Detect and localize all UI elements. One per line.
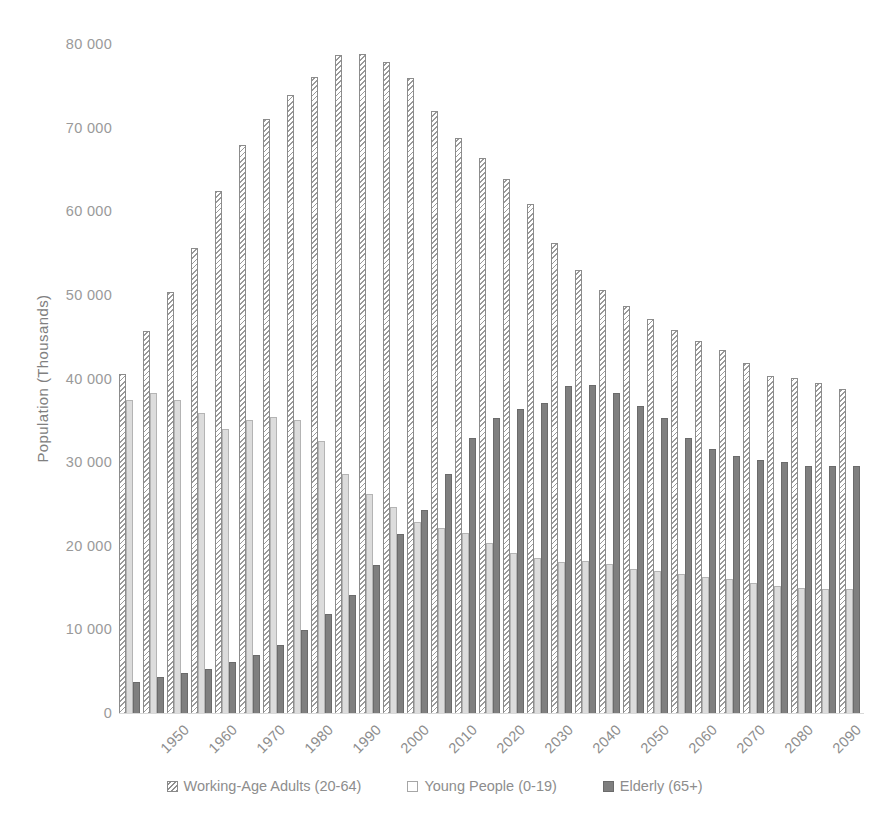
bar-young-2040[interactable] xyxy=(558,562,565,714)
bar-working-1955[interactable] xyxy=(143,331,150,714)
bar-elderly-1980[interactable] xyxy=(277,645,284,714)
bar-working-1985[interactable] xyxy=(287,95,294,714)
bar-working-2035[interactable] xyxy=(527,204,534,714)
bar-young-1955[interactable] xyxy=(150,393,157,714)
bar-elderly-2030[interactable] xyxy=(517,409,524,714)
legend-label: Elderly (65+) xyxy=(620,778,703,794)
bar-elderly-2055[interactable] xyxy=(637,406,644,714)
bar-young-1990[interactable] xyxy=(318,441,325,714)
bar-young-1970[interactable] xyxy=(222,429,229,714)
bar-elderly-1985[interactable] xyxy=(301,630,308,714)
bar-working-1950[interactable] xyxy=(119,374,126,714)
bar-young-1965[interactable] xyxy=(198,413,205,714)
legend-item-elderly[interactable]: Elderly (65+) xyxy=(603,778,703,794)
bar-working-2000[interactable] xyxy=(359,54,366,714)
bar-elderly-2060[interactable] xyxy=(661,418,668,714)
bar-working-2060[interactable] xyxy=(647,319,654,714)
bar-young-1980[interactable] xyxy=(270,417,277,714)
bar-young-1985[interactable] xyxy=(294,420,301,714)
bar-elderly-1950[interactable] xyxy=(133,682,140,714)
bar-young-1995[interactable] xyxy=(342,474,349,714)
bar-working-1980[interactable] xyxy=(263,119,270,714)
bar-elderly-1970[interactable] xyxy=(229,662,236,714)
bar-working-1995[interactable] xyxy=(335,55,342,714)
bar-young-2010[interactable] xyxy=(414,522,421,714)
bar-elderly-2050[interactable] xyxy=(613,393,620,714)
bar-working-1960[interactable] xyxy=(167,292,174,714)
bar-elderly-2025[interactable] xyxy=(493,418,500,714)
bar-young-2025[interactable] xyxy=(486,543,493,714)
bar-elderly-1960[interactable] xyxy=(181,673,188,714)
bar-elderly-2040[interactable] xyxy=(565,386,572,714)
bar-elderly-1975[interactable] xyxy=(253,655,260,714)
bar-working-1975[interactable] xyxy=(239,145,246,714)
bar-working-2100[interactable] xyxy=(839,389,846,714)
bar-elderly-2000[interactable] xyxy=(373,565,380,714)
bar-elderly-2095[interactable] xyxy=(829,466,836,714)
bar-young-2070[interactable] xyxy=(702,577,709,714)
bar-young-2090[interactable] xyxy=(798,588,805,714)
y-tick-label: 30 000 xyxy=(34,454,112,470)
bar-young-2060[interactable] xyxy=(654,571,661,714)
bar-young-2075[interactable] xyxy=(726,579,733,714)
legend-item-working[interactable]: Working-Age Adults (20-64) xyxy=(167,778,362,794)
chart-legend: Working-Age Adults (20-64)Young People (… xyxy=(0,778,869,794)
bar-working-2095[interactable] xyxy=(815,383,822,714)
bar-young-1975[interactable] xyxy=(246,420,253,714)
bar-working-2005[interactable] xyxy=(383,62,390,714)
bar-elderly-2090[interactable] xyxy=(805,466,812,714)
bar-working-2075[interactable] xyxy=(719,350,726,714)
bar-young-2020[interactable] xyxy=(462,533,469,714)
bar-elderly-2075[interactable] xyxy=(733,456,740,714)
bar-working-2070[interactable] xyxy=(695,341,702,714)
bar-young-2005[interactable] xyxy=(390,507,397,714)
bar-young-2015[interactable] xyxy=(438,528,445,714)
bar-working-2080[interactable] xyxy=(743,363,750,714)
bar-young-2030[interactable] xyxy=(510,553,517,714)
legend-item-young[interactable]: Young People (0-19) xyxy=(407,778,556,794)
bar-young-2080[interactable] xyxy=(750,583,757,714)
bar-working-2020[interactable] xyxy=(455,138,462,714)
bar-elderly-1990[interactable] xyxy=(325,614,332,714)
bar-young-2050[interactable] xyxy=(606,564,613,714)
bar-elderly-2015[interactable] xyxy=(445,474,452,714)
bar-elderly-2045[interactable] xyxy=(589,385,596,714)
bar-elderly-2085[interactable] xyxy=(781,462,788,714)
bar-elderly-1965[interactable] xyxy=(205,669,212,714)
bar-working-2085[interactable] xyxy=(767,376,774,714)
bar-elderly-1995[interactable] xyxy=(349,595,356,714)
bar-elderly-2020[interactable] xyxy=(469,438,476,714)
bar-young-2055[interactable] xyxy=(630,569,637,714)
bar-elderly-2080[interactable] xyxy=(757,460,764,714)
bar-young-2045[interactable] xyxy=(582,561,589,714)
bar-young-1950[interactable] xyxy=(126,400,133,714)
bar-elderly-2100[interactable] xyxy=(853,466,860,714)
bar-young-2065[interactable] xyxy=(678,574,685,714)
bar-young-2095[interactable] xyxy=(822,589,829,714)
bar-working-2040[interactable] xyxy=(551,243,558,714)
bar-young-1960[interactable] xyxy=(174,400,181,714)
bar-working-2025[interactable] xyxy=(479,158,486,714)
bar-elderly-2065[interactable] xyxy=(685,438,692,714)
bar-elderly-2035[interactable] xyxy=(541,403,548,714)
bar-working-2010[interactable] xyxy=(407,78,414,714)
bar-working-1965[interactable] xyxy=(191,248,198,714)
bar-young-2100[interactable] xyxy=(846,589,853,714)
bar-group xyxy=(791,44,815,714)
bar-working-2065[interactable] xyxy=(671,330,678,714)
bar-working-2050[interactable] xyxy=(599,290,606,714)
bar-working-2015[interactable] xyxy=(431,111,438,714)
bar-working-1970[interactable] xyxy=(215,191,222,714)
bar-working-1990[interactable] xyxy=(311,77,318,714)
bar-elderly-2010[interactable] xyxy=(421,510,428,714)
bar-working-2030[interactable] xyxy=(503,179,510,714)
bar-working-2055[interactable] xyxy=(623,306,630,714)
bar-elderly-1955[interactable] xyxy=(157,677,164,714)
bar-elderly-2070[interactable] xyxy=(709,449,716,714)
bar-young-2000[interactable] xyxy=(366,494,373,714)
bar-elderly-2005[interactable] xyxy=(397,534,404,714)
bar-young-2085[interactable] xyxy=(774,586,781,714)
bar-working-2045[interactable] xyxy=(575,270,582,714)
bar-working-2090[interactable] xyxy=(791,378,798,714)
bar-young-2035[interactable] xyxy=(534,558,541,714)
